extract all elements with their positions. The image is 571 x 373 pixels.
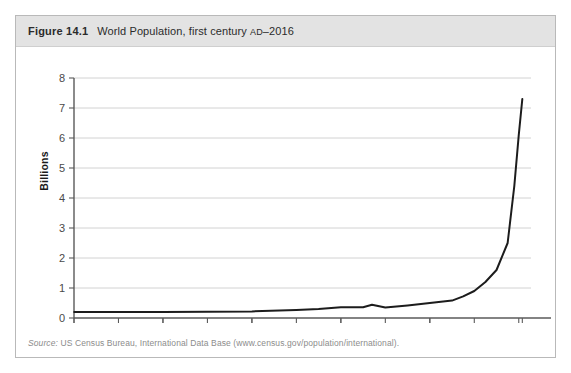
y-axis-tick-label: 5 (59, 162, 65, 174)
figure-caption-band: Figure 14.1 World Population, first cent… (16, 16, 555, 47)
x-axis-tick-label: 800 (243, 327, 261, 328)
y-axis-tick-label: 1 (59, 282, 65, 294)
y-axis-tick-label: 8 (59, 72, 65, 84)
x-axis-tick-label: 2016 (510, 327, 534, 328)
y-axis-tick-label: 6 (59, 132, 65, 144)
figure-title-era: AD (250, 27, 263, 37)
figure-container: Figure 14.1 World Population, first cent… (15, 15, 556, 358)
data-series-line (74, 99, 522, 312)
y-axis-tick-label: 2 (59, 252, 65, 264)
y-axis-tick-label: 4 (59, 192, 65, 204)
figure-title: World Population, first century AD–2016 (97, 25, 294, 37)
x-axis-tick-label: 400 (154, 327, 172, 328)
y-axis-tick-label: 3 (59, 222, 65, 234)
plot-area: Billions 0123456780400800120016002016 (16, 47, 557, 328)
x-axis-tick-label: 1600 (418, 327, 442, 328)
source-label: Source: (28, 338, 58, 348)
figure-number: Figure 14.1 (28, 25, 88, 37)
figure-source: Source: US Census Bureau, International … (28, 338, 399, 348)
figure-title-pre: World Population, first century (97, 25, 250, 37)
x-axis-tick-label: 1200 (329, 327, 353, 328)
source-text: US Census Bureau, International Data Bas… (58, 338, 399, 348)
line-chart: 0123456780400800120016002016 (16, 47, 557, 328)
figure-title-post: –2016 (263, 25, 294, 37)
y-axis-tick-label: 7 (59, 102, 65, 114)
y-axis-tick-label: 0 (59, 312, 65, 324)
x-axis-tick-label: 0 (71, 327, 77, 328)
